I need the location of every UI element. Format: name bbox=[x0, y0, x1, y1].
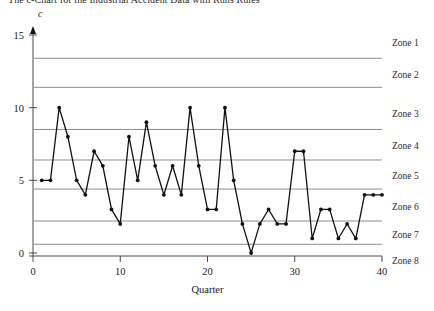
data-point bbox=[363, 193, 367, 197]
zone-label-7: Zone 7 bbox=[392, 230, 419, 240]
data-point bbox=[284, 222, 288, 226]
data-point bbox=[197, 164, 201, 168]
data-point bbox=[83, 193, 87, 197]
x-tick-label-20: 20 bbox=[202, 266, 213, 277]
data-point bbox=[241, 222, 245, 226]
c-chart-figure: 051015010203040QuartercZone 1Zone 2Zone … bbox=[0, 0, 434, 311]
zone-label-2: Zone 2 bbox=[392, 70, 419, 80]
y-axis-arrow-icon bbox=[30, 26, 36, 34]
data-point bbox=[267, 208, 271, 212]
data-point bbox=[179, 193, 183, 197]
zone-label-8: Zone 8 bbox=[392, 256, 419, 266]
data-point bbox=[66, 135, 70, 139]
data-point bbox=[258, 222, 262, 226]
data-point bbox=[127, 135, 131, 139]
data-point bbox=[380, 193, 384, 197]
data-point bbox=[171, 164, 175, 168]
data-series-c bbox=[40, 106, 384, 255]
data-point bbox=[214, 208, 218, 212]
data-point bbox=[153, 164, 157, 168]
data-point bbox=[92, 149, 96, 153]
data-point bbox=[302, 149, 306, 153]
data-point bbox=[319, 208, 323, 212]
data-point bbox=[354, 237, 358, 241]
y-tick-label-5: 5 bbox=[19, 175, 24, 186]
data-point bbox=[40, 178, 44, 182]
data-point bbox=[223, 106, 227, 110]
x-tick-label-10: 10 bbox=[115, 266, 126, 277]
data-point bbox=[206, 208, 210, 212]
chart-axes bbox=[29, 26, 382, 262]
data-point bbox=[188, 106, 192, 110]
data-point bbox=[118, 222, 122, 226]
x-tick-label-40: 40 bbox=[377, 266, 388, 277]
x-tick-label-30: 30 bbox=[290, 266, 301, 277]
zone-label-4: Zone 4 bbox=[392, 141, 419, 151]
y-tick-label-10: 10 bbox=[14, 103, 25, 114]
x-tick-label-0: 0 bbox=[30, 266, 35, 277]
y-axis-title: c bbox=[38, 8, 43, 19]
data-point bbox=[310, 237, 314, 241]
data-point bbox=[75, 178, 79, 182]
data-point bbox=[145, 120, 149, 124]
data-point bbox=[249, 251, 253, 255]
data-point bbox=[275, 222, 279, 226]
zone-lines bbox=[34, 58, 382, 244]
data-point bbox=[136, 178, 140, 182]
zone-label-3: Zone 3 bbox=[392, 109, 419, 119]
data-point bbox=[49, 178, 53, 182]
data-point bbox=[101, 164, 105, 168]
data-point bbox=[110, 208, 114, 212]
zone-label-6: Zone 6 bbox=[392, 202, 419, 212]
data-point bbox=[345, 222, 349, 226]
zone-label-1: Zone 1 bbox=[392, 38, 419, 48]
data-point bbox=[162, 193, 166, 197]
x-axis-title: Quarter bbox=[191, 284, 224, 295]
data-point bbox=[328, 208, 332, 212]
data-point bbox=[57, 106, 61, 110]
data-point bbox=[336, 237, 340, 241]
y-tick-label-0: 0 bbox=[19, 248, 24, 259]
data-point bbox=[232, 178, 236, 182]
y-tick-label-15: 15 bbox=[14, 30, 25, 41]
chart-text-labels: 051015010203040QuartercZone 1Zone 2Zone … bbox=[14, 8, 419, 295]
zone-label-5: Zone 5 bbox=[392, 171, 419, 181]
data-point bbox=[293, 149, 297, 153]
data-point bbox=[371, 193, 375, 197]
chart-canvas: 051015010203040QuartercZone 1Zone 2Zone … bbox=[0, 0, 434, 311]
